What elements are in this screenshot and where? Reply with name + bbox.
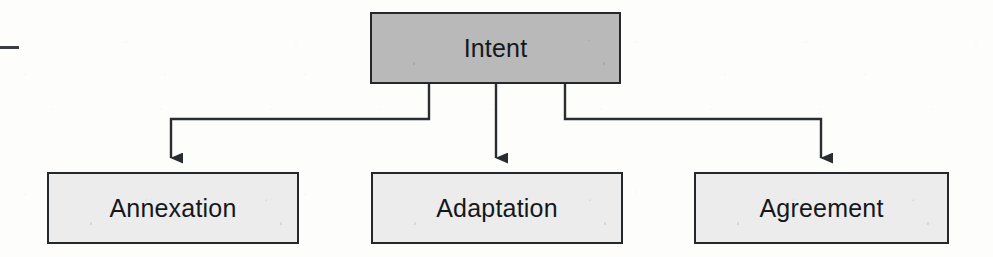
node-annexation[interactable]: Annexation [47, 172, 299, 244]
node-intent[interactable]: Intent [370, 12, 621, 84]
node-agreement-label: Agreement [759, 196, 883, 221]
edge-intent-annexation [171, 84, 429, 158]
scan-artifact-dash-icon [0, 46, 19, 49]
edge-intent-agreement [565, 84, 821, 158]
diagram-canvas: Intent Annexation Adaptation Agreement [0, 0, 993, 257]
node-annexation-label: Annexation [109, 196, 236, 221]
node-intent-label: Intent [464, 36, 528, 61]
node-agreement[interactable]: Agreement [694, 172, 949, 244]
node-adaptation-label: Adaptation [436, 196, 558, 221]
node-adaptation[interactable]: Adaptation [371, 172, 623, 244]
